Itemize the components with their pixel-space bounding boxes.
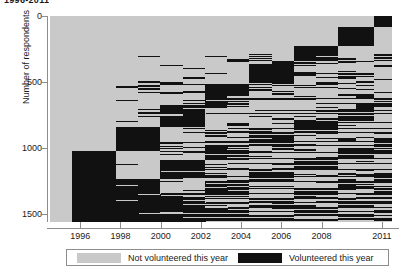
- y-axis-line: [47, 16, 48, 222]
- y-tick-mark: [42, 16, 47, 17]
- legend-label-not-volunteered: Not volunteered this year: [128, 253, 228, 263]
- x-tick-label: 2011: [359, 231, 403, 241]
- y-tick-label: 0: [2, 11, 42, 21]
- x-tick-label: 1996: [57, 231, 103, 241]
- x-tick-mark: [322, 222, 323, 228]
- x-tick-label: 2002: [178, 231, 224, 241]
- legend-label-volunteered: Volunteered this year: [289, 253, 374, 263]
- x-tick-label: 2006: [258, 231, 304, 241]
- y-tick-label: 1500: [2, 209, 42, 219]
- sequence-index-plot-figure: 1996-2011 Number of respondents 05001000…: [0, 0, 403, 272]
- x-tick-label: 2000: [138, 231, 184, 241]
- y-tick-mark: [42, 214, 47, 215]
- heatmap-canvas: [50, 16, 392, 222]
- x-tick-mark: [201, 222, 202, 228]
- x-tick-mark: [241, 222, 242, 228]
- legend-item-not-volunteered: Not volunteered this year: [67, 250, 228, 265]
- x-tick-mark: [281, 222, 282, 228]
- y-tick-label: 1000: [2, 143, 42, 153]
- y-tick-mark: [42, 148, 47, 149]
- x-tick-mark: [382, 222, 383, 228]
- x-tick-mark: [120, 222, 121, 228]
- x-axis-line: [47, 228, 399, 229]
- x-tick-label: 2008: [299, 231, 345, 241]
- legend-item-volunteered: Volunteered this year: [228, 250, 374, 265]
- y-tick-mark: [42, 82, 47, 83]
- legend-swatch-not-volunteered: [77, 253, 121, 263]
- x-tick-mark: [161, 222, 162, 228]
- plot-area: [50, 16, 392, 222]
- legend: Not volunteered this year Volunteered th…: [66, 249, 389, 266]
- legend-swatch-volunteered: [238, 253, 282, 263]
- x-tick-label: 2004: [218, 231, 264, 241]
- x-tick-label: 1998: [97, 231, 143, 241]
- x-tick-mark: [80, 222, 81, 228]
- y-tick-label: 500: [2, 77, 42, 87]
